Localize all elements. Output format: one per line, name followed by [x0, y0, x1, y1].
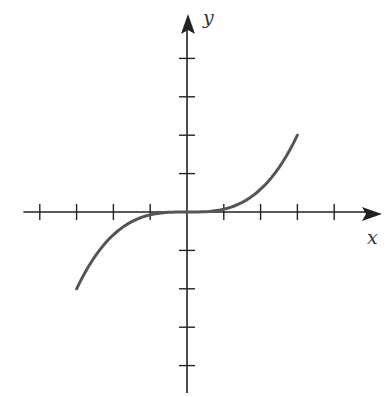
axes [23, 14, 382, 393]
cubic-function-plot [0, 0, 387, 397]
x-axis-label: x [367, 226, 378, 248]
x-axis-arrow-icon [362, 207, 382, 221]
y-axis-arrow-icon [181, 14, 195, 34]
y-axis-label: y [203, 6, 214, 28]
